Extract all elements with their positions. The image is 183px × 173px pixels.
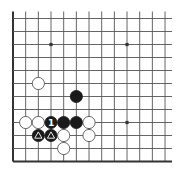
star-point	[125, 121, 128, 124]
stone-disc	[70, 90, 82, 102]
stone-disc	[70, 116, 82, 128]
move-number-label: 1	[48, 118, 54, 128]
stone-disc	[58, 142, 70, 154]
white-stone	[32, 77, 44, 89]
black-stone	[70, 90, 82, 102]
stone-disc	[32, 77, 44, 89]
stone-disc	[83, 116, 95, 128]
stones-layer: 1	[20, 77, 96, 154]
black-stone	[45, 129, 57, 141]
white-stone	[58, 129, 70, 141]
stone-disc	[83, 129, 95, 141]
stone-disc	[32, 116, 44, 128]
white-stone	[83, 129, 95, 141]
white-stone	[20, 116, 32, 128]
star-point	[49, 43, 52, 46]
stone-disc	[58, 116, 70, 128]
black-stone	[58, 116, 70, 128]
black-stone	[70, 116, 82, 128]
go-board-diagram: 1	[0, 0, 183, 173]
white-stone	[58, 142, 70, 154]
white-stone	[83, 116, 95, 128]
star-point	[125, 43, 128, 46]
stone-disc	[20, 116, 32, 128]
stone-disc	[58, 129, 70, 141]
black-stone	[32, 129, 44, 141]
white-stone	[32, 116, 44, 128]
black-stone: 1	[45, 116, 57, 128]
